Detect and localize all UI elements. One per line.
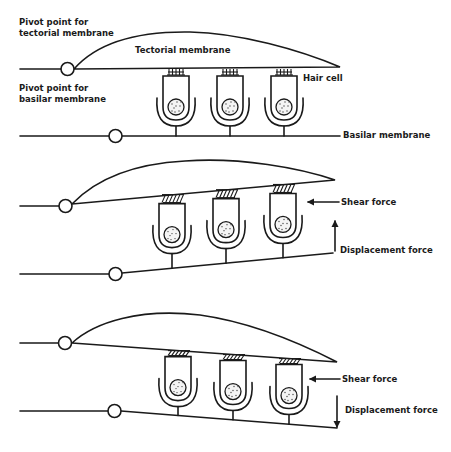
tectorial-membrane [72,313,337,362]
basilar-membrane [121,411,337,428]
tectorial-pivot [61,63,74,76]
displacement-force-label: Displacement force [345,405,438,415]
tectorial-pivot [59,337,72,350]
nucleus [170,380,186,396]
stereocilia [273,184,295,192]
basilar-pivot-label-line2: basilar membrane [19,94,106,104]
stereocilia [216,190,238,198]
nucleus [222,99,238,115]
displacement-force-label: Displacement force [340,245,433,255]
tectorial-pivot-label-line2: tectorial membrane [19,28,114,38]
nucleus [168,99,184,115]
tectorial-pivot [59,200,72,213]
nucleus [164,227,180,243]
nucleus [275,216,291,232]
hair-cell [159,351,197,416]
tectorial-pivot-label-line1: Pivot point for [19,17,89,27]
nucleus [276,99,292,115]
nucleus [281,388,297,404]
shear-force-label: Shear force [342,374,398,384]
hair-cells [159,351,308,425]
stereocilia [167,69,185,75]
hair-cell [264,184,302,257]
hair-cell [265,69,303,136]
basilar-pivot [109,268,122,281]
hair-cell-shear-diagram: Pivot point for tectorial membrane Tecto… [0,0,451,452]
nucleus [225,384,241,400]
hair-cell [214,355,252,420]
stereocilia [221,69,239,75]
hair-cells [153,184,302,268]
stereocilia [162,195,184,203]
hair-cell [211,69,249,136]
basilar-membrane-label: Basilar membrane [343,130,431,140]
hair-cell-label: Hair cell [303,73,343,83]
panel-downward: Shear force Displacement force [20,313,438,428]
hair-cell [157,69,195,136]
stereocilia [275,69,293,75]
basilar-membrane [122,253,333,273]
shear-force-label: Shear force [341,197,397,207]
basilar-pivot [108,405,121,418]
hair-cells [157,69,303,136]
basilar-pivot-label-line1: Pivot point for [19,83,89,93]
hair-cell [153,195,191,269]
basilar-pivot [109,130,122,143]
hair-cell [270,359,308,425]
panel-rest: Pivot point for tectorial membrane Tecto… [19,17,431,143]
panel-upward: Shear force Displacement force [20,160,433,280]
hair-cell [207,190,245,263]
tectorial-membrane-label: Tectorial membrane [135,45,231,55]
nucleus [218,222,234,238]
